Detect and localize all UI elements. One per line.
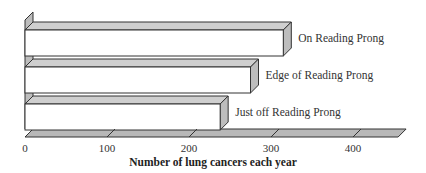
bar-category-label: Edge of Reading Prong <box>266 69 374 82</box>
x-tick-label: 100 <box>99 142 116 154</box>
x-axis-label: Number of lung cancers each year <box>129 156 296 169</box>
x-tick-label: 0 <box>22 142 28 154</box>
bar-category-label: On Reading Prong <box>298 32 384 45</box>
bar-category-label: Just off Reading Prong <box>235 106 341 119</box>
bar-chart: On Reading ProngEdge of Reading ProngJus… <box>0 0 426 173</box>
x-tick-label: 400 <box>345 142 362 154</box>
x-tick-label: 200 <box>181 142 198 154</box>
bar: Edge of Reading Prong <box>25 59 373 93</box>
bar: Just off Reading Prong <box>25 96 341 130</box>
bar: On Reading Prong <box>25 22 384 56</box>
bars: On Reading ProngEdge of Reading ProngJus… <box>25 22 384 130</box>
x-tick-label: 300 <box>263 142 280 154</box>
